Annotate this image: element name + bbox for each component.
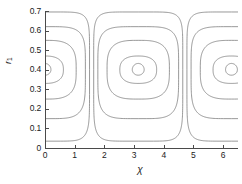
y-tick-label: 0.3 (0, 85, 41, 94)
x-axis-label: χ (0, 164, 242, 175)
x-tick-mark (164, 145, 165, 149)
x-tick-mark (193, 145, 194, 149)
y-tick-mark (45, 89, 49, 90)
contour-line (45, 12, 90, 141)
y-tick-mark (45, 50, 49, 51)
y-axis-label-base: r (3, 61, 13, 64)
y-tick-label: 0.7 (0, 7, 41, 16)
x-tick-label: 0 (35, 151, 55, 160)
x-tick-mark (104, 145, 105, 149)
x-axis-label-text: χ (137, 164, 142, 175)
x-tick-label: 3 (124, 151, 144, 160)
contour-plot-figure: 00.10.20.30.40.50.60.7 0123456 r1 χ (0, 0, 242, 184)
x-tick-label: 4 (154, 151, 174, 160)
x-tick-label: 5 (183, 151, 203, 160)
y-axis-label: r1 (3, 57, 13, 64)
y-tick-label: 0.4 (0, 65, 41, 74)
contour-line (45, 40, 76, 99)
x-tick-label: 1 (65, 151, 85, 160)
x-tick-label: 2 (94, 151, 114, 160)
contour-line (187, 12, 238, 141)
y-tick-mark (45, 70, 49, 71)
y-tick-label: 0.1 (0, 124, 41, 133)
contour-lines-group (45, 11, 238, 148)
y-tick-mark (45, 31, 49, 32)
y-tick-mark (45, 109, 49, 110)
x-tick-mark (75, 145, 76, 149)
contour-line (200, 40, 238, 99)
y-tick-label: 0.5 (0, 46, 41, 55)
contour-line (226, 63, 238, 75)
x-tick-mark (134, 145, 135, 149)
contour-line (132, 63, 144, 75)
x-tick-mark (223, 145, 224, 149)
contour-line (107, 40, 169, 99)
y-axis-label-subscript: 1 (6, 57, 13, 61)
plot-area (45, 11, 238, 148)
y-tick-mark (45, 11, 49, 12)
y-tick-label: 0.6 (0, 26, 41, 35)
y-tick-label: 0.2 (0, 104, 41, 113)
x-tick-mark (45, 145, 46, 149)
x-tick-label: 6 (213, 151, 233, 160)
contour-line (120, 56, 157, 83)
y-tick-mark (45, 128, 49, 129)
